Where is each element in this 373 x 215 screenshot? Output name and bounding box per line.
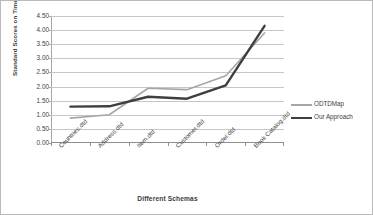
legend-item[interactable]: Our Approach	[291, 111, 373, 124]
legend-label: Our Approach	[314, 114, 353, 120]
y-axis-tick-label: 2.00	[21, 83, 49, 89]
y-axis-tick-label: 3.50	[21, 41, 49, 47]
legend-line-swatch	[291, 104, 312, 106]
y-axis-tick-label: 0.50	[21, 126, 49, 132]
y-axis-tick-label: 1.50	[21, 97, 49, 103]
x-axis-tick-labels: Countries.dtdAddress.dtdItem.dtdCustomer…	[51, 144, 284, 196]
legend-label: ODTDMap	[314, 101, 344, 107]
chart-legend: ODTDMapOur Approach	[291, 98, 373, 124]
legend-line-swatch	[291, 117, 312, 119]
y-axis-tick-labels: 4.504.003.503.002.502.001.501.000.500.00	[21, 12, 49, 144]
y-axis-tick-label: 4.00	[21, 27, 49, 33]
y-axis-tick-label: 1.00	[21, 112, 49, 118]
y-axis-tick-label: 0.00	[21, 140, 49, 146]
y-axis-tick-label: 4.50	[21, 13, 49, 19]
chart-figure: Standard Scores on Time 4.504.003.503.00…	[0, 0, 373, 215]
y-axis-tick-label: 2.50	[21, 69, 49, 75]
legend-item[interactable]: ODTDMap	[291, 98, 373, 111]
y-axis-tick-label: 3.00	[21, 55, 49, 61]
x-axis-title: Different Schemas	[51, 195, 284, 202]
y-axis-title: Standard Scores on Time	[11, 0, 18, 98]
